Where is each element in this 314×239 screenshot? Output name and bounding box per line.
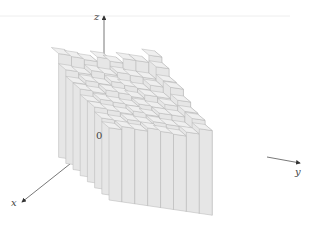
x-axis-label: x [11,197,17,208]
bar-front-face [148,128,161,208]
bar-front-face [122,126,135,203]
origin-label: 0 [96,130,102,141]
bar-front-face [199,129,212,215]
riemann-sum-3d-plot: z x y 0 [0,0,314,239]
bar-columns [51,47,212,215]
bar-front-face [174,134,187,211]
bar-front-face [161,131,174,209]
y-axis-label: y [294,166,301,177]
bar-front-face [135,129,148,206]
z-axis-label: z [93,11,100,22]
bar-front-face [186,132,199,213]
bar-front-face [109,128,122,202]
y-axis [267,157,300,163]
